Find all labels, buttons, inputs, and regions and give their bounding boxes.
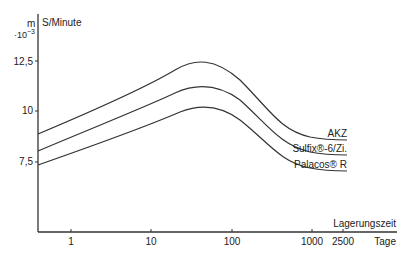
series-line-akz [38, 62, 347, 140]
xtick-label-2500: 2500 [332, 236, 355, 247]
xtick-label-1: 1 [68, 236, 74, 247]
x-unit-label: Tage [374, 236, 396, 247]
series-label-palacos: Palacos® R [294, 159, 347, 170]
xtick-label-100: 100 [224, 236, 241, 247]
ytick-label-10: 10 [22, 105, 34, 116]
series-label-sulfix: Sulfix®-6/Zi. [292, 143, 347, 154]
xtick-label-1000: 1000 [301, 236, 324, 247]
y-scale-label: ·10−3 [14, 28, 35, 40]
y-axis-title: S/Minute [42, 17, 82, 28]
ytick-label-12-5: 12,5 [14, 56, 34, 67]
ytick-label-7-5: 7,5 [19, 156, 33, 167]
xtick-label-10: 10 [145, 236, 157, 247]
y-scale-exponent: −3 [27, 28, 35, 35]
x-axis-title: Lagerungszeit [333, 218, 396, 229]
chart-canvas: m S/Minute ·10−3 12,5 10 7,5 1 10 100 10… [0, 0, 412, 260]
series-label-akz: AKZ [328, 128, 347, 139]
y-scale-base: ·10 [14, 30, 27, 40]
